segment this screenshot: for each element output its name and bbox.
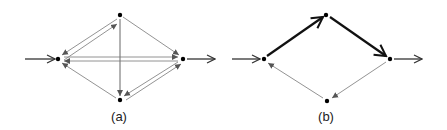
edge-right-to-bottom: [332, 62, 386, 98]
edge-bottom-to-left: [268, 63, 323, 98]
node-bottom: [325, 99, 329, 103]
edge-top-to-right: [123, 17, 179, 55]
edge-left-to-top: [64, 24, 117, 60]
diagram-b-label: (b): [318, 109, 334, 124]
edge-bottom-to-left: [62, 63, 116, 98]
edge-top-to-right-bold: [330, 17, 386, 56]
node-left: [56, 57, 60, 61]
flow-graph-diagrams: [0, 0, 447, 130]
node-bottom: [118, 98, 122, 102]
node-top: [118, 13, 122, 17]
edge-left-to-top-bold: [267, 17, 323, 56]
diagram-a: [25, 13, 215, 102]
edge-bottom-to-right: [126, 64, 181, 100]
node-right: [181, 57, 185, 61]
diagram-b: [232, 13, 422, 103]
edge-top-to-left: [62, 19, 117, 55]
node-right: [388, 57, 392, 61]
node-top: [324, 13, 328, 17]
diagram-a-label: (a): [111, 109, 127, 124]
node-left: [262, 57, 266, 61]
edge-right-to-bottom: [124, 62, 178, 96]
